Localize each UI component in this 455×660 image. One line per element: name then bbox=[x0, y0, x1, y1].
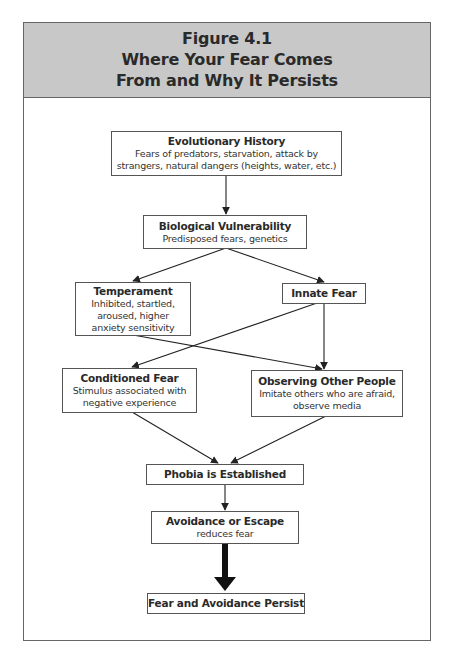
node-desc: Predisposed fears, genetics bbox=[162, 233, 287, 245]
figure-title-line1: Where Your Fear Comes bbox=[24, 49, 430, 70]
node-desc: Imitate others who are afraid, bbox=[259, 388, 395, 400]
node-title: Temperament bbox=[93, 285, 172, 298]
figure-number: Figure 4.1 bbox=[24, 28, 430, 49]
node-innate-fear: Innate Fear bbox=[282, 283, 366, 304]
node-title: Fear and Avoidance Persist bbox=[148, 597, 304, 610]
node-temperament: Temperament Inhibited, startled, aroused… bbox=[75, 282, 191, 336]
node-phobia-established: Phobia is Established bbox=[146, 464, 304, 485]
node-desc: reduces fear bbox=[196, 528, 253, 540]
figure-header: Figure 4.1 Where Your Fear Comes From an… bbox=[23, 22, 431, 98]
node-title: Innate Fear bbox=[291, 287, 357, 300]
node-desc: Fears of predators, starvation, attack b… bbox=[135, 148, 318, 160]
node-desc: anxiety sensitivity bbox=[92, 322, 175, 334]
figure-title-line2: From and Why It Persists bbox=[24, 70, 430, 91]
node-avoidance-escape: Avoidance or Escape reduces fear bbox=[151, 511, 299, 544]
node-title: Evolutionary History bbox=[168, 135, 285, 148]
node-title: Conditioned Fear bbox=[80, 372, 178, 385]
node-title: Observing Other People bbox=[258, 375, 395, 388]
node-desc: strangers, natural dangers (heights, wat… bbox=[117, 160, 337, 172]
node-desc: Stimulus associated with bbox=[73, 385, 187, 397]
node-desc: Inhibited, startled, bbox=[91, 298, 174, 310]
node-observing-other-people: Observing Other People Imitate others wh… bbox=[251, 370, 403, 417]
node-desc: aroused, higher bbox=[97, 310, 169, 322]
node-title: Avoidance or Escape bbox=[166, 515, 284, 528]
node-conditioned-fear: Conditioned Fear Stimulus associated wit… bbox=[62, 368, 197, 413]
node-desc: observe media bbox=[293, 400, 361, 412]
node-evolutionary-history: Evolutionary History Fears of predators,… bbox=[111, 131, 342, 176]
node-biological-vulnerability: Biological Vulnerability Predisposed fea… bbox=[143, 215, 307, 249]
node-title: Phobia is Established bbox=[164, 468, 286, 481]
node-fear-avoidance-persist: Fear and Avoidance Persist bbox=[147, 593, 305, 614]
node-desc: negative experience bbox=[83, 397, 176, 409]
node-title: Biological Vulnerability bbox=[159, 220, 291, 233]
